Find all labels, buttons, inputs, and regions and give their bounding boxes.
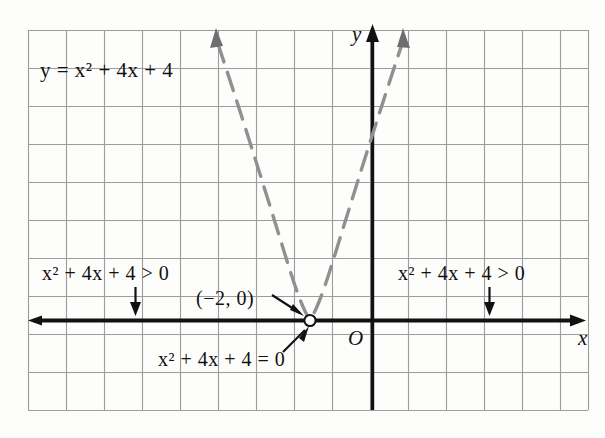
curve-equation-label: y = x² + 4x + 4 bbox=[40, 58, 173, 83]
figure-canvas: y = x² + 4x + 4 x² + 4x + 4 > 0 x² + 4x … bbox=[0, 0, 605, 438]
open-circle-icon bbox=[304, 315, 315, 326]
right-inequality-label: x² + 4x + 4 > 0 bbox=[398, 262, 525, 285]
left-inequality-label: x² + 4x + 4 > 0 bbox=[42, 262, 169, 285]
origin-label: O bbox=[348, 326, 364, 351]
x-axis-label: x bbox=[578, 326, 588, 351]
vertex-coordinate-label: (−2, 0) bbox=[196, 287, 254, 310]
root-equation-label: x² + 4x + 4 = 0 bbox=[158, 348, 285, 371]
y-axis-label: y bbox=[352, 22, 362, 47]
